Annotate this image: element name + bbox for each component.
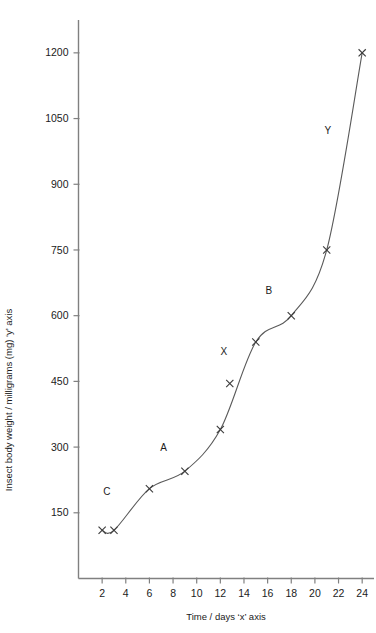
x-tick-label: 8 (170, 587, 176, 599)
annotation-label-b: B (265, 285, 272, 296)
annotation-label-x: X (221, 346, 228, 357)
y-tick-label: 450 (51, 375, 69, 387)
axes-group (79, 20, 375, 579)
x-tick-label: 18 (285, 587, 297, 599)
data-annotation-group: CAXBY (103, 125, 331, 497)
data-point-marker (99, 527, 106, 534)
annotation-label-c: C (103, 486, 110, 497)
x-tick-label: 12 (214, 587, 226, 599)
x-tick-label: 14 (238, 587, 250, 599)
y-tick-label: 750 (51, 244, 69, 256)
x-tick-label: 20 (309, 587, 321, 599)
series-line-0 (102, 53, 362, 534)
data-point-marker (226, 380, 233, 387)
x-axis-tick-labels: 24681012141618202224 (99, 587, 368, 599)
x-tick-label: 2 (99, 587, 105, 599)
y-axis-title: Insect body weight / milligrams (mg) ‘y’… (3, 309, 14, 492)
data-point-marker (146, 485, 153, 492)
insect-body-weight-line-chart: 15030045060075090010501200 2468101214161… (0, 0, 376, 633)
annotation-label-a: A (160, 442, 167, 453)
data-point-marker (181, 468, 188, 475)
data-point-marker (323, 246, 330, 253)
x-tick-label: 10 (191, 587, 203, 599)
x-tick-label: 16 (262, 587, 274, 599)
annotation-label-y: Y (325, 125, 332, 136)
data-point-marker (217, 426, 224, 433)
series-line-group (102, 53, 362, 534)
x-tick-label: 4 (123, 587, 129, 599)
x-axis-title: Time / days ‘x’ axis (186, 611, 266, 622)
y-tick-label: 600 (51, 309, 69, 321)
y-tick-label: 1050 (45, 112, 69, 124)
data-point-marker (110, 527, 117, 534)
data-point-marker (252, 338, 259, 345)
y-tick-label: 300 (51, 441, 69, 453)
x-tick-label: 6 (146, 587, 152, 599)
chart-figure: 15030045060075090010501200 2468101214161… (0, 0, 376, 633)
y-axis-tick-labels: 15030045060075090010501200 (45, 46, 69, 518)
y-tick-label: 900 (51, 178, 69, 190)
series-marker-group (99, 49, 366, 534)
x-tick-label: 24 (356, 587, 368, 599)
x-tick-label: 22 (333, 587, 345, 599)
y-tick-label: 1200 (45, 46, 69, 58)
data-point-marker (288, 312, 295, 319)
y-tick-label: 150 (51, 506, 69, 518)
